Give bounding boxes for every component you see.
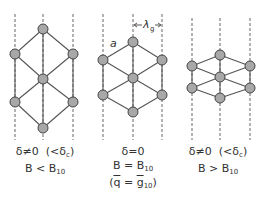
lattice-constant-label: a [110,37,117,50]
left-caption: δ≠0 (<δc) B < B10 [0,145,90,179]
lattice-node [38,123,48,133]
right-caption: δ≠0 (<δc) B > B10 [175,145,261,179]
lattice-node [215,72,225,82]
spacing-label: λ [142,18,150,31]
lattice-node [215,50,225,60]
left-relation: B < B [25,162,56,175]
lattice-node [245,61,255,71]
lattice-node [68,49,78,59]
lattice-node [215,93,225,103]
lattice-nodes [10,24,255,133]
lattice-node [128,73,138,83]
lattice-node [187,61,197,71]
lattice-node [187,83,197,93]
lattice-node [245,83,255,93]
right-relation: B > B [198,162,229,175]
lattice-node [128,107,138,117]
middle-condition: δ=0 [122,145,145,158]
lattice-node [38,24,48,34]
middle-caption: δ=0 B = B10 (q = g10) [92,145,174,193]
middle-vector-relation: (q = g10) [92,176,174,193]
left-condition: δ≠0 [16,145,39,158]
lattice-node [98,55,108,65]
lattice-node [157,55,167,65]
lattice-node [98,90,108,100]
lattice-node [10,97,20,107]
lattice-node [157,90,167,100]
spacing-label-sub: g [150,25,154,33]
lattice-node [10,49,20,59]
lattice-node [68,97,78,107]
middle-relation: B = B [113,159,144,172]
right-condition: δ≠0 [189,145,212,158]
lattice-node [128,37,138,47]
lattice-node [38,74,48,84]
